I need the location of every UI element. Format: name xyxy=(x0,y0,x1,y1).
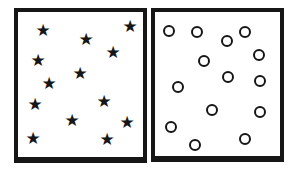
star-icon: ★ xyxy=(30,52,45,69)
star-icon: ★ xyxy=(64,112,79,129)
circle-icon xyxy=(189,139,201,151)
circle-icon xyxy=(172,81,184,93)
circle-icon xyxy=(221,35,233,47)
star-icon: ★ xyxy=(122,18,137,35)
circle-icon xyxy=(206,104,218,116)
circle-icon xyxy=(254,106,266,118)
star-panel: ★★★★★★★★★★★★★ xyxy=(14,8,147,163)
two-panel-figure: ★★★★★★★★★★★★★ xyxy=(0,0,297,169)
star-icon: ★ xyxy=(105,44,120,61)
circle-icon xyxy=(191,26,203,38)
star-icon: ★ xyxy=(96,93,111,110)
star-icon: ★ xyxy=(119,114,134,131)
circle-icon xyxy=(165,121,177,133)
circle-icon xyxy=(222,71,234,83)
circle-icon xyxy=(163,25,175,37)
star-icon: ★ xyxy=(25,130,40,147)
star-icon: ★ xyxy=(72,65,87,82)
star-icon: ★ xyxy=(27,96,42,113)
star-icon: ★ xyxy=(78,31,93,48)
circle-icon xyxy=(198,55,210,67)
star-icon: ★ xyxy=(35,22,50,39)
circle-panel xyxy=(151,8,284,162)
star-icon: ★ xyxy=(41,75,56,92)
circle-icon xyxy=(254,75,266,87)
circle-icon xyxy=(239,26,251,38)
star-icon: ★ xyxy=(99,131,114,148)
circle-icon xyxy=(239,133,251,145)
circle-icon xyxy=(253,49,265,61)
